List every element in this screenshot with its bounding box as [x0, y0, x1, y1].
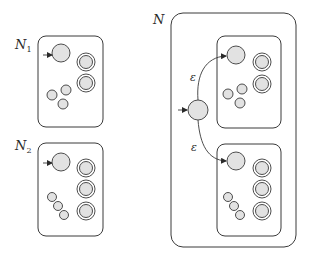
epsilon-label-2: ε	[191, 141, 197, 154]
n1-accept-state-1	[77, 53, 95, 71]
n-inner-n1	[217, 36, 281, 128]
n-inner-n2-box	[217, 144, 281, 236]
n1-state	[58, 99, 68, 109]
n2-label: N2	[14, 138, 31, 155]
n-inner-n1-state	[223, 89, 233, 99]
n1-start-state	[52, 44, 70, 62]
n-inner-n2-start-state	[227, 152, 245, 170]
n2-accept-state-2	[77, 180, 95, 198]
epsilon-edge-to-n2	[198, 120, 226, 161]
n1-label: N1	[14, 37, 31, 54]
n-inner-n2-state	[230, 202, 239, 211]
n2-state	[54, 202, 63, 211]
n-inner-n1-accept-state-2	[253, 75, 271, 93]
n-inner-n1-state	[237, 84, 247, 94]
n1-accept-state-2	[77, 74, 95, 92]
n2-state	[60, 211, 69, 220]
n1-state	[47, 90, 57, 100]
machine-n: N	[152, 12, 296, 247]
n-inner-n1-start-state	[227, 46, 245, 64]
n-inner-n1-box	[217, 36, 281, 128]
n2-accept-state-1	[77, 159, 95, 177]
n-inner-n2-accept-state-1	[253, 159, 271, 177]
n-inner-n2-state	[224, 193, 233, 202]
epsilon-label-1: ε	[190, 71, 196, 84]
n-label: N	[152, 12, 165, 27]
n1-state	[61, 85, 71, 95]
n-inner-n1-state	[235, 98, 245, 108]
n-inner-n1-accept-state-1	[253, 53, 271, 71]
nfa-union-diagram: N1 N2 N	[0, 0, 313, 258]
n2-state	[48, 193, 57, 202]
machine-n1: N1	[14, 36, 103, 127]
machine-n2: N2	[14, 138, 103, 236]
n-inner-n2-state	[236, 211, 245, 220]
epsilon-edge-to-n1	[198, 56, 226, 100]
n-inner-n2-accept-state-3	[253, 202, 271, 220]
n2-accept-state-3	[77, 202, 95, 220]
n-inner-n2	[217, 144, 281, 236]
n-inner-n2-accept-state-2	[253, 180, 271, 198]
n2-start-state	[52, 153, 70, 171]
n-new-start-state	[188, 100, 208, 120]
